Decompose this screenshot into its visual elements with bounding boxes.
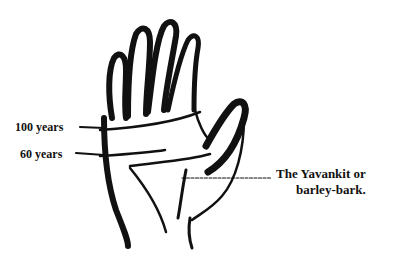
label-100-years: 100 years	[15, 121, 63, 133]
head-line	[130, 154, 210, 166]
pointer-100	[80, 127, 104, 128]
label-yavankit: The Yavankit or barley-bark.	[276, 166, 366, 198]
thumb-mount-line	[178, 170, 186, 218]
pointer-60	[76, 153, 104, 155]
index-base-edge	[195, 110, 210, 140]
life-line	[104, 118, 128, 246]
fate-line	[130, 168, 166, 232]
middle-crease	[100, 150, 165, 156]
little-finger	[109, 54, 126, 118]
upper-crease	[100, 112, 200, 130]
wrist-right	[189, 218, 192, 248]
label-yavankit-line2: barley-bark.	[276, 182, 366, 198]
label-60-years: 60 years	[20, 148, 62, 160]
label-yavankit-line1: The Yavankit or	[276, 166, 366, 182]
